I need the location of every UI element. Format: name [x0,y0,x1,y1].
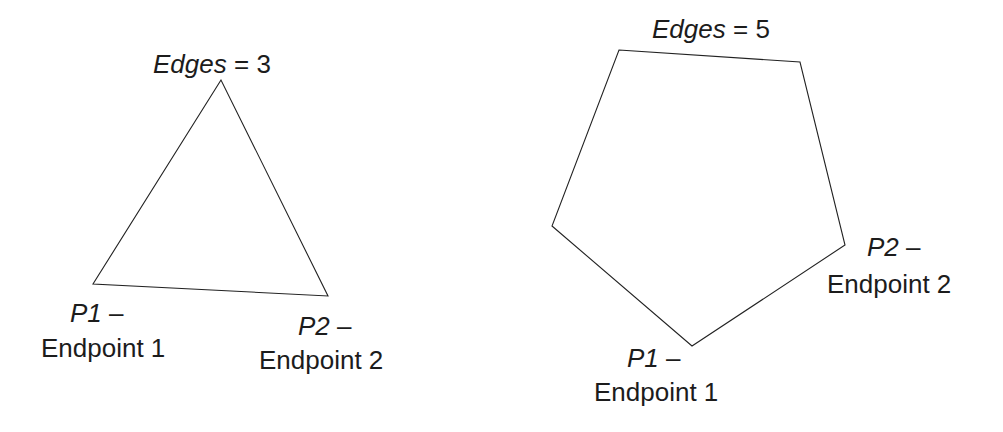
p2-variable: P2 [867,232,899,262]
triangle-shape [93,80,328,296]
p1-variable: P1 [627,343,659,373]
p2-variable: P2 [298,311,330,341]
triangle-endpoint2-label: Endpoint 2 [259,347,383,373]
p2-dash: – [899,232,921,262]
triangle-p1-label: P1 – [70,300,124,326]
equals-sign: = [726,14,756,44]
triangle-edges-label: Edges = 3 [153,51,271,77]
diagram-canvas [0,0,1003,432]
p1-variable: P1 [70,298,102,328]
p1-dash: – [659,343,681,373]
edges-value: 5 [755,14,769,44]
pentagon-p2-label: P2 – [867,234,921,260]
pentagon-edges-label: Edges = 5 [652,16,770,42]
p2-dash: – [330,311,352,341]
equals-sign: = [227,49,257,79]
edges-value: 3 [256,49,270,79]
pentagon-p1-label: P1 – [627,345,681,371]
edges-variable: Edges [652,14,726,44]
pentagon-endpoint1-label: Endpoint 1 [594,379,718,405]
edges-variable: Edges [153,49,227,79]
triangle-p2-label: P2 – [298,313,352,339]
p1-dash: – [102,298,124,328]
pentagon-shape [552,50,845,346]
pentagon-endpoint2-label: Endpoint 2 [827,271,951,297]
triangle-endpoint1-label: Endpoint 1 [41,335,165,361]
